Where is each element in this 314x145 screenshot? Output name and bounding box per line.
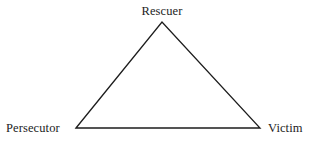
vertex-label-rescuer: Rescuer xyxy=(142,5,183,18)
drama-triangle-diagram: Rescuer Persecutor Victim xyxy=(0,0,314,145)
vertex-label-victim: Victim xyxy=(268,122,303,135)
vertex-label-persecutor: Persecutor xyxy=(6,122,60,135)
triangle-outline xyxy=(76,22,260,128)
